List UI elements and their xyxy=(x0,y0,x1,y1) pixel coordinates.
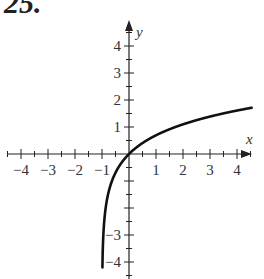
y-tick-label: 1 xyxy=(114,119,122,135)
y-tick-label: 4 xyxy=(114,38,122,54)
function-curve xyxy=(102,108,251,268)
x-tick-label: −1 xyxy=(94,162,110,178)
y-tick-label: 3 xyxy=(114,65,122,81)
function-graph: −4−3−2−112344321−3−4xy xyxy=(0,0,264,279)
x-tick-label: −3 xyxy=(40,162,56,178)
y-tick-label: −3 xyxy=(105,227,121,243)
y-tick-label: −4 xyxy=(105,254,121,270)
x-tick-label: 2 xyxy=(179,162,187,178)
x-tick-label: −4 xyxy=(13,162,29,178)
y-tick-label: 2 xyxy=(114,92,122,108)
x-tick-label: 3 xyxy=(206,162,214,178)
x-tick-label: −2 xyxy=(67,162,83,178)
y-axis-label: y xyxy=(134,24,143,40)
x-tick-label: 4 xyxy=(233,162,241,178)
x-tick-label: 1 xyxy=(152,162,160,178)
y-axis-arrow-icon xyxy=(125,20,133,31)
x-axis-label: x xyxy=(245,131,253,147)
